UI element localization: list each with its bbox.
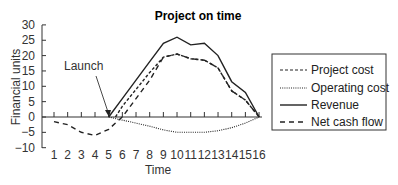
chart-title: Project on time xyxy=(155,9,242,23)
legend-label-project-cost: Project cost xyxy=(311,63,374,77)
series-lines xyxy=(54,37,259,135)
x-tick-label: 11 xyxy=(184,148,197,162)
y-axis-label: Financial units xyxy=(9,49,23,126)
launch-annotation: Launch xyxy=(64,59,103,73)
legend-label-operating-cost: Operating cost xyxy=(311,81,390,95)
x-tick-label: 6 xyxy=(119,148,126,162)
y-tick-label: −5 xyxy=(21,125,35,139)
x-tick-label: 12 xyxy=(198,148,212,162)
x-tick-label: 7 xyxy=(133,148,140,162)
series-operating-cost xyxy=(109,117,259,132)
y-tick-label: 30 xyxy=(22,18,36,32)
y-tick-label: 10 xyxy=(22,79,36,93)
x-axis-label: Time xyxy=(145,163,172,177)
y-tick-label: 0 xyxy=(28,110,35,124)
y-tick-label: −10 xyxy=(15,141,36,155)
x-tick-label: 15 xyxy=(239,148,253,162)
chart: Project on time −10−5051015202530 123456… xyxy=(0,0,398,185)
x-tick-label: 14 xyxy=(225,148,239,162)
x-tick-label: 13 xyxy=(211,148,225,162)
x-tick-label: 16 xyxy=(252,148,266,162)
y-tick-label: 25 xyxy=(22,33,36,47)
x-tick-label: 4 xyxy=(92,148,99,162)
legend-label-net-cash-flow: Net cash flow xyxy=(311,115,383,129)
legend-label-revenue: Revenue xyxy=(311,98,359,112)
y-tick-label: 15 xyxy=(22,64,36,78)
x-tick-label: 8 xyxy=(146,148,153,162)
launch-arrow-line xyxy=(96,76,108,112)
x-tick-label: 10 xyxy=(170,148,184,162)
x-tick-label: 2 xyxy=(64,148,71,162)
x-tick-label: 5 xyxy=(105,148,112,162)
x-tick-label: 3 xyxy=(78,148,85,162)
x-ticks: 12345678910111213141516 xyxy=(51,112,266,162)
y-tick-label: 20 xyxy=(22,49,36,63)
x-tick-label: 1 xyxy=(51,148,58,162)
x-tick-label: 9 xyxy=(160,148,167,162)
y-tick-label: 5 xyxy=(28,95,35,109)
